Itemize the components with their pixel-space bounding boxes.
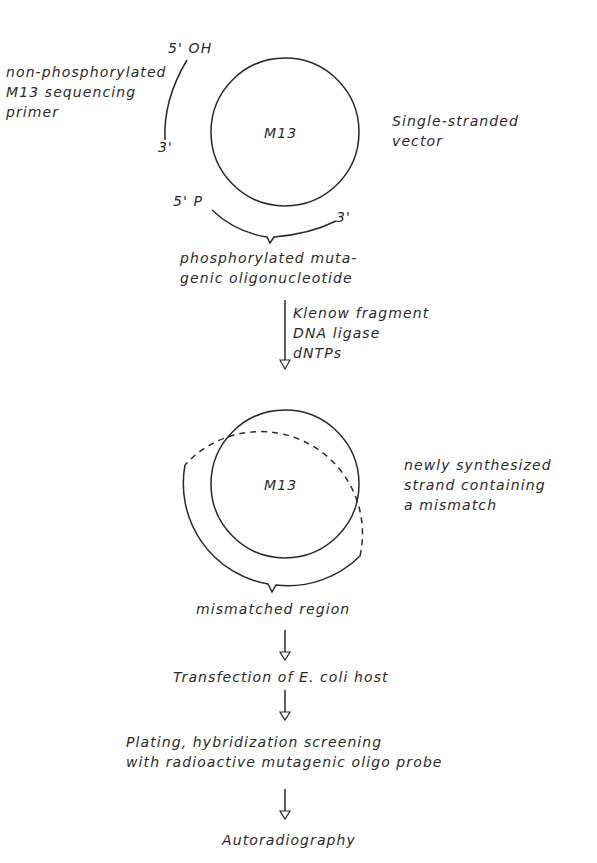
step1-group: M13 5' OH 3' non-phosphorylated M13 sequ… [5, 40, 519, 286]
step-transfection: Transfection of E. coli host [173, 669, 389, 685]
transition1-group: Klenow fragment DNA ligase dNTPs [280, 300, 429, 369]
mutagenesis-diagram: M13 5' OH 3' non-phosphorylated M13 sequ… [0, 0, 597, 863]
arrow-down-icon [280, 652, 290, 660]
oligo-3prime-label: 3' [336, 209, 351, 225]
step-plating-line2: with radioactive mutagenic oligo probe [126, 754, 443, 770]
new-strand-description-line2: strand containing [404, 477, 546, 493]
new-strand-description-line3: a mismatch [404, 497, 497, 513]
vector-description-line2: vector [392, 133, 443, 149]
m13-label-top: M13 [264, 125, 297, 141]
reagent-dntps: dNTPs [293, 345, 342, 361]
step-plating-line1: Plating, hybridization screening [126, 734, 382, 750]
reagent-klenow: Klenow fragment [293, 305, 429, 321]
vector-description-line1: Single-stranded [392, 113, 519, 129]
primer-5prime-label: 5' OH [168, 40, 212, 56]
oligo-description-line1: phosphorylated muta- [179, 250, 358, 266]
sequencing-primer-strand [165, 60, 187, 140]
steps-group: Transfection of E. coli host Plating, hy… [126, 630, 443, 848]
oligo-description-line2: genic oligonucleotide [180, 270, 353, 286]
reagent-ligase: DNA ligase [293, 325, 380, 341]
arrow-down-icon [280, 712, 290, 720]
oligo-5prime-label: 5' P [173, 193, 203, 209]
mismatch-label: mismatched region [196, 601, 350, 617]
new-strand-description-line1: newly synthesized [404, 457, 552, 473]
primer-description-line3: primer [5, 104, 59, 120]
step2-group: M13 mismatched region newly synthesized … [183, 410, 551, 617]
primer-description-line1: non-phosphorylated [6, 64, 167, 80]
step-autoradiography: Autoradiography [221, 832, 356, 848]
primer-description-line2: M13 sequencing [6, 84, 136, 100]
m13-label-bottom: M13 [264, 477, 297, 493]
primer-3prime-label: 3' [158, 139, 173, 155]
arrow-down-icon [280, 360, 290, 369]
arrow-down-icon [280, 811, 290, 819]
mutagenic-oligo-strand [212, 210, 336, 243]
